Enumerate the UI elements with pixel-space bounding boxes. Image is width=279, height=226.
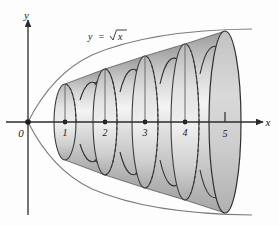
x-tick-label-5: 5: [223, 128, 228, 139]
curve-label-y: y: [87, 31, 93, 42]
x-tick-label-1: 1: [63, 127, 68, 138]
x-axis-label: x: [265, 116, 271, 128]
curve-equation-label: y = x: [87, 30, 127, 42]
y-axis-label: y: [23, 9, 29, 21]
x-tick-label-4: 4: [183, 127, 188, 138]
origin-label: 0: [18, 127, 24, 139]
curve-label-radicand: x: [117, 31, 123, 42]
x-tick-label-3: 3: [142, 127, 148, 138]
curve-label-equals: =: [98, 31, 105, 42]
solid-of-revolution-diagram: y x 0 1 2 3 4 5 y = x: [0, 0, 279, 226]
origin-point: [25, 119, 31, 125]
figure-canvas: y x 0 1 2 3 4 5 y = x: [0, 0, 279, 226]
x-tick-label-2: 2: [103, 127, 108, 138]
